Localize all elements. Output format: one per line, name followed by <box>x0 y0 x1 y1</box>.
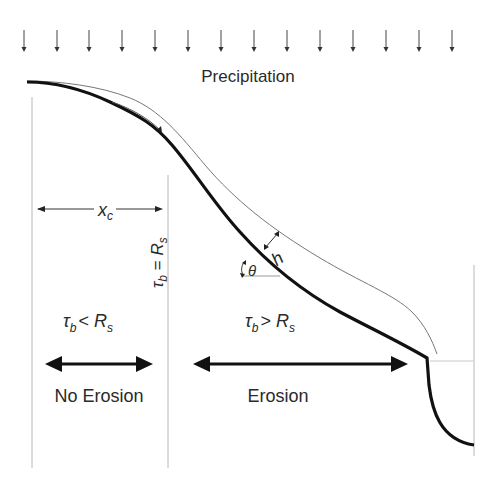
precipitation-label: Precipitation <box>201 67 295 86</box>
rain-arrow-icon <box>450 30 455 52</box>
rain-arrow-icon <box>219 30 224 52</box>
slope-angle-label: θ <box>248 262 256 279</box>
precipitation-arrows <box>22 30 455 52</box>
rain-arrow-icon <box>153 30 158 52</box>
threshold-equation-label: τb = Rs <box>148 237 170 288</box>
erosion-range-arrow <box>193 356 408 372</box>
no-erosion-label: No Erosion <box>54 386 143 406</box>
rain-arrow-icon <box>384 30 389 52</box>
critical-distance-label: xc <box>97 200 113 223</box>
rain-arrow-icon <box>87 30 92 52</box>
no-erosion-range-arrow <box>45 356 153 372</box>
erosion-diagram: Precipitation xc τb = Rs h θ τb< Rs τb> … <box>0 0 496 492</box>
rain-arrow-icon <box>252 30 257 52</box>
erosion-condition-label: τb> Rs <box>245 311 295 335</box>
rain-arrow-icon <box>417 30 422 52</box>
rain-arrow-icon <box>318 30 323 52</box>
erosion-label: Erosion <box>247 386 308 406</box>
rain-arrow-icon <box>22 30 27 52</box>
rain-arrow-icon <box>285 30 290 52</box>
rain-arrow-icon <box>351 30 356 52</box>
flow-depth-label: h <box>268 248 288 270</box>
flow-depth-indicator <box>264 231 279 250</box>
rain-arrow-icon <box>186 30 191 52</box>
rain-arrow-icon <box>120 30 125 52</box>
no-erosion-condition-label: τb< Rs <box>63 311 113 335</box>
rain-arrow-icon <box>55 30 60 52</box>
